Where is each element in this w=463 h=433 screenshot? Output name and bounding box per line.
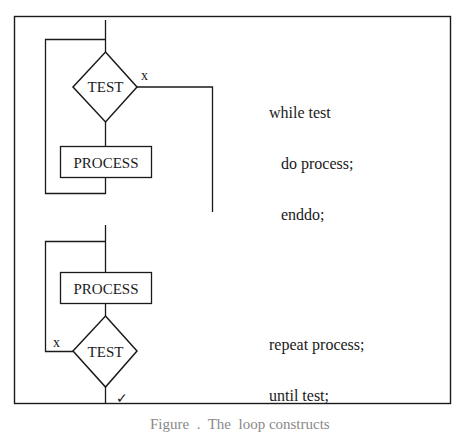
repeat-test-label: TEST (88, 344, 124, 360)
figure-caption: Figure . The loop constructs (150, 416, 330, 433)
code-line: while test (269, 104, 353, 121)
while-code-block: while test do process; enddo; (269, 70, 353, 240)
code-line: until test; (269, 387, 365, 404)
code-line: enddo; (269, 206, 353, 223)
while-test-label: TEST (88, 79, 124, 95)
repeat-loop-label: x (53, 335, 60, 350)
while-process-label: PROCESS (73, 155, 138, 171)
code-line: repeat process; (269, 336, 365, 353)
while-exit-label: x (141, 68, 148, 83)
while-loop-flowchart: TEST x PROCESS (46, 20, 213, 212)
repeat-process-label: PROCESS (73, 281, 138, 297)
code-line: do process; (269, 155, 353, 172)
repeat-loop-flowchart: PROCESS TEST x ✓ (46, 225, 152, 406)
repeat-exit-checkmark-icon: ✓ (116, 391, 128, 406)
repeat-code-block: repeat process; until test; (269, 302, 365, 421)
